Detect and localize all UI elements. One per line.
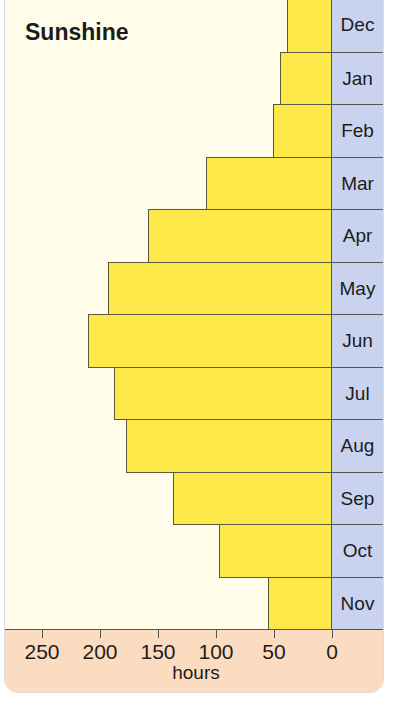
month-label: Jan — [332, 52, 383, 105]
bar-jul — [114, 367, 332, 421]
bar-jan — [280, 52, 332, 106]
month-label: Apr — [332, 209, 383, 262]
x-axis-label: hours — [172, 662, 220, 684]
bar-dec — [287, 0, 332, 53]
month-label: Mar — [332, 157, 383, 210]
month-label: Feb — [332, 104, 383, 157]
bar-mar — [206, 157, 332, 211]
month-label: Nov — [332, 577, 383, 630]
x-tick — [332, 630, 333, 638]
zero-axis-line — [331, 0, 332, 629]
x-tick — [158, 630, 159, 638]
bar-sep — [173, 472, 332, 526]
bar-nov — [268, 577, 332, 631]
x-tick-label: 0 — [326, 640, 338, 664]
x-tick-label: 200 — [82, 640, 117, 664]
x-tick — [274, 630, 275, 638]
x-tick-label: 50 — [262, 640, 285, 664]
sunshine-chart-card: Sunshine DecJanFebMarAprMayJunJulAugSepO… — [4, 0, 384, 693]
x-axis: 250200150100500 hours — [5, 629, 383, 693]
bar-may — [108, 262, 332, 316]
x-tick — [100, 630, 101, 638]
bar-jun — [88, 314, 332, 368]
month-label: Jun — [332, 314, 383, 367]
x-tick-label: 150 — [140, 640, 175, 664]
chart-title: Sunshine — [25, 19, 129, 46]
month-label: May — [332, 262, 383, 315]
month-label: Sep — [332, 472, 383, 525]
bar-feb — [273, 104, 332, 158]
month-label: Jul — [332, 367, 383, 420]
x-tick-label: 250 — [24, 640, 59, 664]
bar-apr — [148, 209, 332, 263]
x-tick — [216, 630, 217, 638]
bar-aug — [126, 419, 332, 473]
x-tick — [42, 630, 43, 638]
month-label: Dec — [332, 0, 383, 52]
month-label: Aug — [332, 419, 383, 472]
bar-oct — [219, 524, 332, 578]
month-label: Oct — [332, 524, 383, 577]
x-tick-label: 100 — [198, 640, 233, 664]
